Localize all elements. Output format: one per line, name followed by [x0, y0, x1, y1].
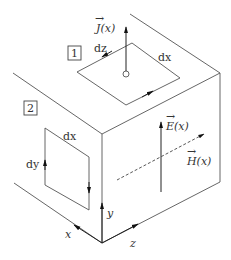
loop-2 — [24, 101, 89, 210]
loop-1-dx-label: dx — [158, 51, 172, 64]
axis-z-label: z — [129, 237, 136, 250]
box-1-label: 1 — [71, 47, 78, 60]
box-2-label: 2 — [27, 102, 34, 115]
loop-2-dy-label: dy — [26, 158, 40, 171]
loop-1-dz-label: dz — [94, 42, 107, 55]
cube-diagram: 1 2 J(x) → dz dx dx dy E(x) → H(x) → y x… — [0, 0, 231, 260]
loop-1 — [68, 27, 180, 105]
j-vector-symbol: → — [95, 12, 104, 25]
axis-x-label: x — [65, 228, 72, 241]
x-axis-arrow — [74, 225, 102, 243]
axis-y-label: y — [106, 207, 114, 220]
axes — [74, 203, 138, 243]
top-back-edge — [130, 14, 220, 73]
e-vector-symbol: → — [166, 110, 175, 123]
h-vector-symbol: → — [187, 145, 196, 158]
loop-1-arrow-bottom — [142, 91, 153, 97]
loop-2-dx-label: dx — [63, 130, 77, 143]
cube-edges — [13, 14, 220, 243]
current-source-icon — [123, 71, 129, 77]
